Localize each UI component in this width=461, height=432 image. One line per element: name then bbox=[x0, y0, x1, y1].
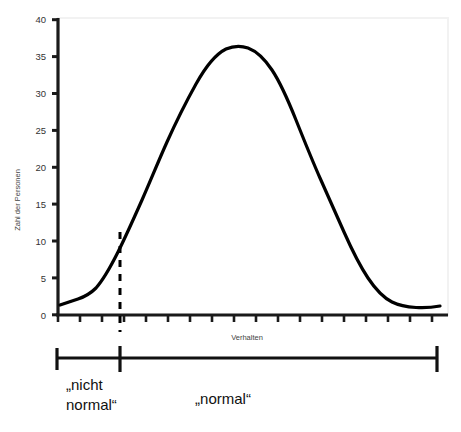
bracket-label-nicht-normal-line1: „nicht bbox=[66, 376, 104, 393]
y-tick-label: 30 bbox=[35, 88, 46, 99]
y-axis-title: Zahl der Personen bbox=[13, 169, 22, 231]
x-axis-title: Verhalten bbox=[231, 333, 263, 342]
y-axis-tick-labels: 40 35 30 25 20 15 10 5 0 bbox=[35, 14, 46, 320]
y-tick-label: 0 bbox=[41, 310, 46, 321]
y-tick-label: 35 bbox=[35, 51, 46, 62]
bracket-label-nicht-normal-line2: normal“ bbox=[66, 396, 117, 413]
distribution-curve bbox=[60, 46, 440, 307]
bracket-label-normal: „normal“ bbox=[195, 390, 251, 407]
normal-distribution-chart: 40 35 30 25 20 15 10 5 0 Zahl der Person… bbox=[0, 0, 461, 432]
y-tick-label: 10 bbox=[35, 236, 46, 247]
y-tick-label: 25 bbox=[35, 125, 46, 136]
plot-area-border bbox=[58, 18, 448, 315]
chart-figure: 40 35 30 25 20 15 10 5 0 Zahl der Person… bbox=[0, 0, 461, 432]
y-tick-label: 20 bbox=[35, 162, 46, 173]
y-tick-label: 15 bbox=[35, 199, 46, 210]
y-tick-label: 40 bbox=[35, 14, 46, 25]
y-tick-label: 5 bbox=[41, 273, 46, 284]
